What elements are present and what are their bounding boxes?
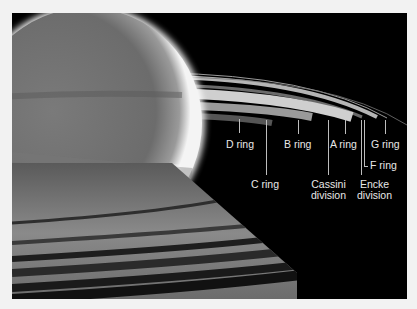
d-ring-label: D ring: [226, 139, 254, 150]
encke-division-label-line2: division: [353, 190, 396, 201]
f-ring-label: F ring: [370, 160, 397, 171]
f-ring-pointer: [364, 120, 365, 166]
cassini-division-label-line2: division: [307, 190, 350, 201]
a-ring-pointer: [345, 120, 346, 134]
f-ring-pointer-hook: [364, 166, 368, 167]
d-ring-pointer: [239, 119, 240, 133]
saturn-rings-image: D ring C ring B ring Cassini division A …: [12, 13, 407, 299]
g-ring-label: G ring: [371, 139, 400, 150]
encke-division-pointer: [361, 120, 362, 175]
c-ring-label: C ring: [251, 179, 279, 190]
b-ring-pointer: [298, 120, 299, 134]
cassini-division-pointer: [328, 120, 329, 175]
c-ring-pointer: [266, 120, 267, 175]
b-ring-label: B ring: [284, 139, 311, 150]
cassini-division-label: Cassini division: [307, 179, 350, 201]
a-ring-label: A ring: [330, 139, 357, 150]
encke-division-label: Encke division: [353, 179, 396, 201]
g-ring-pointer: [385, 120, 386, 134]
saturn-illustration: [12, 13, 407, 299]
